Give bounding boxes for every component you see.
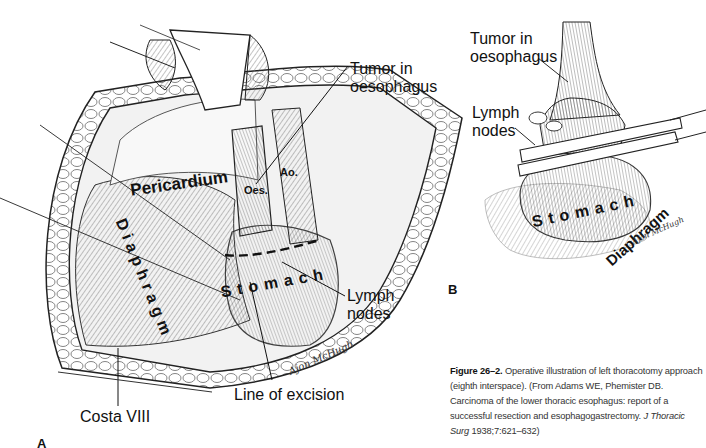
- label-line: nodes: [472, 122, 519, 140]
- label-line: Tumor in: [350, 60, 437, 78]
- organ-label-oes: Oes.: [244, 184, 268, 196]
- label-tumor-in-oesophagus-a: Tumor in oesophagus: [350, 60, 437, 96]
- label-lymph-nodes-b: Lymph nodes: [472, 104, 519, 140]
- label-costa-viii: Costa VIII: [80, 408, 150, 426]
- citation-tail: 1938;7:621–632): [471, 426, 539, 436]
- label-lymph-nodes-a: Lymph nodes: [347, 287, 394, 323]
- label-line: Lymph: [347, 287, 394, 305]
- label-line-of-excision: Line of excision: [234, 386, 344, 404]
- label-line: Lymph: [472, 104, 519, 122]
- panel-letter-a: A: [37, 436, 46, 448]
- label-line: oesophagus: [470, 48, 557, 66]
- figure-caption: Figure 26–2. Operative illustration of l…: [450, 364, 706, 439]
- label-line: Tumor in: [470, 30, 557, 48]
- figure-number: Figure 26–2.: [450, 366, 502, 376]
- organ-label-ao: Ao.: [280, 166, 298, 178]
- label-line: oesophagus: [350, 78, 437, 96]
- label-tumor-in-oesophagus-b: Tumor in oesophagus: [470, 30, 557, 66]
- panel-letter-b: B: [448, 282, 457, 297]
- label-line: nodes: [347, 305, 394, 323]
